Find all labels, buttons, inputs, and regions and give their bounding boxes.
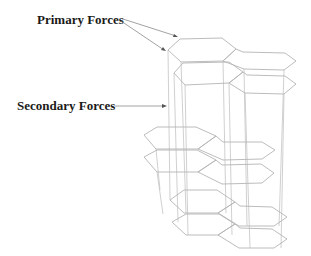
- hexagon-cell: [218, 224, 287, 248]
- hexagon-cell: [198, 160, 274, 184]
- pillar-line: [185, 85, 188, 235]
- hexagon-cell: [229, 72, 296, 94]
- pillar-line: [168, 50, 170, 200]
- hexagon-cell: [174, 62, 243, 85]
- hexagon-cell: [144, 127, 216, 149]
- pillar-line: [174, 73, 178, 222]
- hexagonal-structure-diagram: [0, 0, 311, 256]
- pillar-line: [223, 61, 226, 213]
- hexagon-sheets: [144, 38, 296, 248]
- secondary-arrowhead: [162, 104, 167, 108]
- pillar-line: [229, 83, 232, 235]
- hexagon-cell: [144, 150, 216, 172]
- hexagon-cell: [218, 202, 287, 226]
- primary-arrowhead-1: [173, 34, 178, 37]
- pillar-line: [156, 149, 160, 190]
- pillar-line: [157, 172, 163, 214]
- hexagon-cell: [223, 49, 296, 70]
- primary-arrowhead-2: [161, 47, 166, 51]
